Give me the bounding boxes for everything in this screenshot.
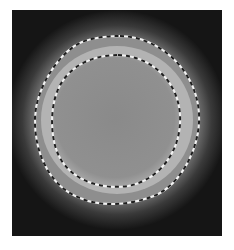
scan-image [12,10,222,236]
scan-svg [12,10,222,236]
